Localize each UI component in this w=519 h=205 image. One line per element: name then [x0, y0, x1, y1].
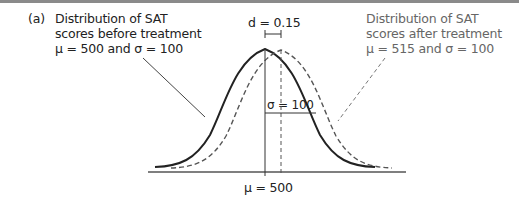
effect-size-bracket: [265, 30, 281, 38]
distribution-diagram: [0, 0, 519, 205]
after-pointer-line: [338, 58, 385, 121]
before-pointer-line: [143, 58, 205, 117]
